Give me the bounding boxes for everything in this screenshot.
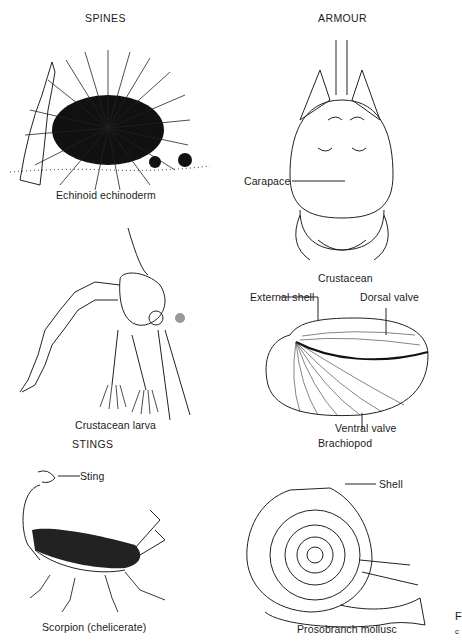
label-shell: Shell: [379, 478, 403, 490]
crustacean-drawing: [290, 40, 393, 260]
echinoid-drawing: [10, 50, 210, 190]
brachiopod-drawing: [266, 297, 428, 430]
label-dorsal-valve: Dorsal valve: [360, 291, 419, 303]
edge-caption-fragment-2: c: [455, 627, 459, 636]
caption-echinoid: Echinoid echinoderm: [56, 189, 156, 201]
label-sting: Sting: [80, 470, 104, 482]
prosobranch-drawing: [247, 484, 425, 627]
crustacean-larva-drawing: [20, 228, 190, 420]
section-heading-spines: SPINES: [85, 12, 126, 24]
caption-crustacean: Crustacean: [318, 272, 373, 284]
scorpion-drawing: [23, 471, 165, 612]
label-external-shell: External shell: [250, 291, 314, 303]
section-heading-armour: ARMOUR: [318, 12, 367, 24]
label-ventral-valve: Ventral valve: [335, 422, 396, 434]
caption-brachiopod: Brachiopod: [318, 437, 372, 449]
caption-prosobranch: Prosobranch mollusc: [297, 623, 397, 635]
caption-scorpion: Scorpion (chelicerate): [42, 621, 146, 633]
section-heading-stings: STINGS: [72, 438, 114, 450]
caption-crustacean-larva: Crustacean larva: [75, 419, 156, 431]
label-carapace: Carapace: [244, 175, 290, 187]
edge-caption-fragment-1: F: [455, 610, 462, 622]
